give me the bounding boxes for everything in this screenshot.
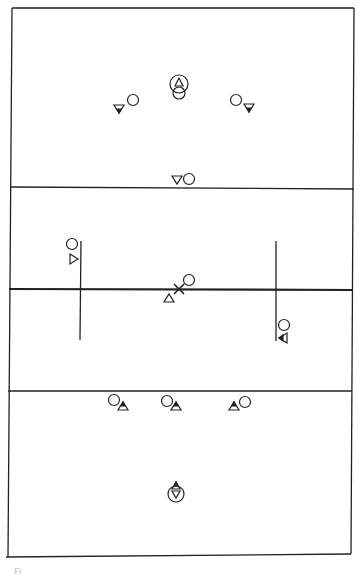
- figure-caption-fragment: Fi: [14, 566, 22, 576]
- player-circle: [240, 397, 251, 408]
- player-circle: [184, 275, 195, 286]
- player-triangle-up: [164, 294, 174, 302]
- top-goal-marker: [170, 75, 188, 99]
- player-triangle-down: [244, 104, 254, 112]
- player-circle: [231, 95, 242, 106]
- upper-restraining-line: [10, 187, 354, 189]
- player-circle: [67, 239, 78, 250]
- midfield-line: [9, 289, 353, 290]
- player-circle: [162, 396, 173, 407]
- player-triangle-down: [114, 105, 124, 113]
- left-sideline: [8, 8, 12, 557]
- right-sideline: [351, 8, 354, 554]
- player-triangle-up: [229, 402, 239, 410]
- player-circle: [109, 395, 120, 406]
- player-circle: [128, 95, 139, 106]
- player-circle: [184, 174, 195, 185]
- player-circle: [279, 320, 290, 331]
- player-triangle-left: [279, 333, 287, 343]
- lacrosse-field-diagram: [0, 0, 358, 578]
- player-triangle-up: [118, 402, 128, 410]
- bottom-goal-marker: [168, 482, 184, 502]
- player-triangle-right: [70, 254, 78, 264]
- left-wing-line: [80, 241, 81, 340]
- player-triangle-down: [172, 176, 182, 184]
- bottom-end-line: [6, 554, 351, 557]
